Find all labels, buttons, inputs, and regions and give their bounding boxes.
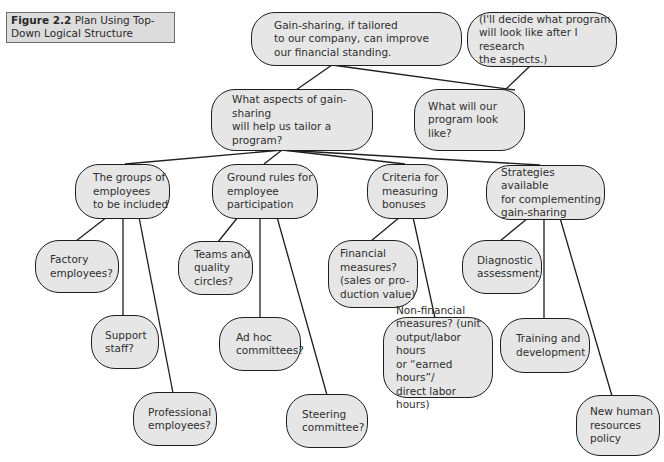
factory-node: Factory employees? [35,240,119,293]
teams-node-text: Teams and quality circles? [194,248,250,289]
program-node-text: What will our program look like? [428,100,524,141]
support-node-text: Support staff? [105,329,147,356]
root-node: Gain-sharing, if tailored to our company… [251,12,462,66]
root-node-text: Gain-sharing, if tailored to our company… [274,19,429,60]
training-node: Training and development [500,318,590,373]
aspects-node-text: What aspects of gain-sharing will help u… [232,93,372,147]
hr-policy-node: New human resources policy [576,395,660,456]
support-node: Support staff? [91,315,159,369]
diagnostic-node: Diagnostic assessment [462,240,542,294]
financial-node-text: Financial measures? (sales or pro- ducti… [340,247,415,301]
factory-node-text: Factory employees? [50,253,113,280]
criteria-node-text: Criteria for measuring bonuses [382,171,439,212]
adhoc-node-text: Ad hoc committees? [236,331,304,358]
teams-node: Teams and quality circles? [178,241,253,295]
adhoc-node: Ad hoc committees? [219,317,301,371]
diagnostic-node-text: Diagnostic assessment [477,254,539,281]
hr-policy-node-text: New human resources policy [590,405,653,446]
groups-node: The groups of employees to be included [75,164,170,219]
connector-lines [0,0,664,462]
strategies-node-text: Strategies available for complementing g… [501,166,604,220]
professional-node: Professional employees? [133,392,217,446]
ground-rules-node-text: Ground rules for employee participation [227,171,313,212]
steering-node-text: Steering committee? [302,408,364,435]
aspects-node: What aspects of gain-sharing will help u… [211,89,373,151]
program-node: What will our program look like? [414,89,525,151]
steering-node: Steering committee? [286,394,368,448]
groups-node-text: The groups of employees to be included [93,171,168,212]
financial-node: Financial measures? (sales or pro- ducti… [328,240,418,308]
strategies-node: Strategies available for complementing g… [486,165,605,220]
criteria-node: Criteria for measuring bonuses [367,164,448,219]
note-node: (I'll decide what program will look like… [467,12,617,67]
note-node-text: (I'll decide what program will look like… [479,13,616,67]
professional-node-text: Professional employees? [148,406,211,433]
training-node-text: Training and development [516,332,585,359]
nonfinancial-node-text: Non-financial measures? (unit output/lab… [396,304,492,412]
nonfinancial-node: Non-financial measures? (unit output/lab… [383,317,493,398]
ground-rules-node: Ground rules for employee participation [212,164,318,219]
